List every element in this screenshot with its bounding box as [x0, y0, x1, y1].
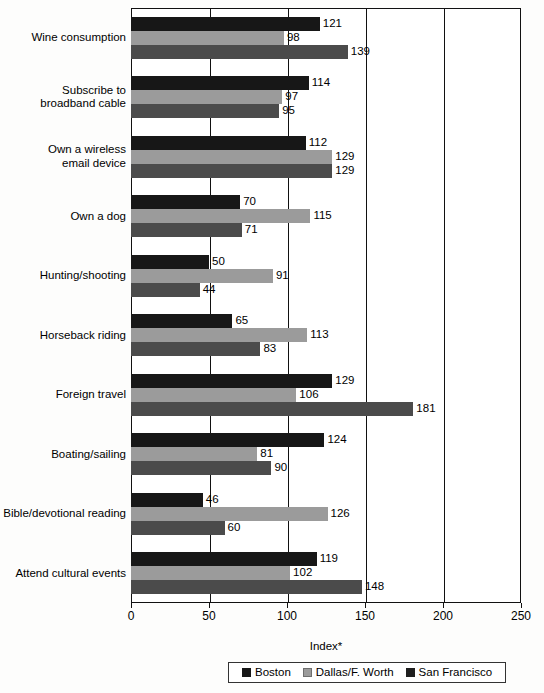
bar-slot: 71	[131, 223, 521, 237]
bar[interactable]	[131, 90, 282, 104]
category-label: Foreign travel	[0, 388, 126, 402]
bar[interactable]	[131, 580, 362, 594]
category-label: Subscribe to broadband cable	[0, 84, 126, 111]
bar[interactable]	[131, 283, 200, 297]
bar-groups: 1219813911497951121291297011571509144651…	[131, 8, 521, 603]
bar-value-label: 44	[200, 284, 216, 296]
bar[interactable]	[131, 45, 348, 59]
bar[interactable]	[131, 255, 209, 269]
bar-slot: 181	[131, 402, 521, 416]
bar-slot: 91	[131, 269, 521, 283]
bar-value-label: 83	[260, 344, 276, 356]
x-tick-label: 150	[355, 610, 375, 622]
bar-value-label: 60	[225, 522, 241, 534]
bar-group: 7011571	[131, 187, 521, 247]
bar-value-label: 121	[320, 18, 342, 30]
bar[interactable]	[131, 433, 324, 447]
legend-label: Boston	[255, 667, 291, 679]
bar-slot: 65	[131, 314, 521, 328]
legend-swatch-icon	[242, 668, 251, 677]
bar-value-label: 70	[240, 197, 256, 209]
bar[interactable]	[131, 314, 232, 328]
bar[interactable]	[131, 104, 279, 118]
bar-slot: 121	[131, 17, 521, 31]
bar-value-label: 65	[232, 316, 248, 328]
bar-value-label: 91	[273, 270, 289, 282]
bar[interactable]	[131, 164, 332, 178]
category-label: Wine consumption	[0, 31, 126, 45]
bar-value-label: 102	[290, 568, 312, 580]
bar-slot: 90	[131, 461, 521, 475]
bar-value-label: 129	[332, 375, 354, 387]
bar-value-label: 106	[296, 389, 318, 401]
bar-slot: 83	[131, 342, 521, 356]
bar[interactable]	[131, 328, 307, 342]
bar-value-label: 181	[413, 403, 435, 415]
bar[interactable]	[131, 223, 242, 237]
bar[interactable]	[131, 447, 257, 461]
bar-slot: 119	[131, 552, 521, 566]
bar-group: 1248190	[131, 425, 521, 485]
bar-value-label: 112	[306, 137, 327, 149]
x-tick-label: 100	[277, 610, 297, 622]
chart-legend: BostonDallas/F. WorthSan Francisco	[228, 662, 506, 683]
bar-value-label: 95	[279, 106, 295, 118]
bar-value-label: 139	[348, 46, 370, 58]
legend-swatch-icon	[406, 668, 415, 677]
bar-slot: 106	[131, 388, 521, 402]
bar-slot: 81	[131, 447, 521, 461]
bar-value-label: 97	[282, 92, 298, 104]
bar[interactable]	[131, 521, 225, 535]
bar-value-label: 126	[328, 508, 350, 520]
bar[interactable]	[131, 507, 328, 521]
x-tick-label: 250	[511, 610, 531, 622]
bar-group: 112129129	[131, 127, 521, 187]
bar-slot: 98	[131, 31, 521, 45]
category-label: Hunting/shooting	[0, 269, 126, 283]
bar-slot: 113	[131, 328, 521, 342]
bar[interactable]	[131, 209, 310, 223]
bar-value-label: 46	[203, 494, 219, 506]
bar[interactable]	[131, 402, 413, 416]
bar[interactable]	[131, 150, 332, 164]
category-label: Horseback riding	[0, 329, 126, 343]
legend-swatch-icon	[303, 668, 312, 677]
bar-value-label: 71	[242, 225, 258, 237]
bar-slot: 70	[131, 195, 521, 209]
bar[interactable]	[131, 136, 306, 150]
bar[interactable]	[131, 31, 284, 45]
bar-slot: 60	[131, 521, 521, 535]
bar[interactable]	[131, 269, 273, 283]
x-tick-mark	[365, 603, 366, 608]
bar-group: 6511383	[131, 306, 521, 366]
bar[interactable]	[131, 342, 260, 356]
bar-slot: 114	[131, 76, 521, 90]
bar-group: 129106181	[131, 365, 521, 425]
bar[interactable]	[131, 552, 317, 566]
bar-slot: 112	[131, 136, 521, 150]
x-tick-mark	[521, 603, 522, 608]
bar-slot: 124	[131, 433, 521, 447]
bar[interactable]	[131, 461, 271, 475]
bar-slot: 126	[131, 507, 521, 521]
bar[interactable]	[131, 566, 290, 580]
bar[interactable]	[131, 493, 203, 507]
bar-value-label: 81	[257, 449, 273, 461]
legend-label: Dallas/F. Worth	[316, 667, 394, 679]
bar[interactable]	[131, 76, 309, 90]
x-tick-mark	[443, 603, 444, 608]
legend-item[interactable]: San Francisco	[406, 667, 493, 679]
category-axis-labels: Wine consumptionSubscribe to broadband c…	[0, 8, 126, 603]
bar[interactable]	[131, 195, 240, 209]
bar-value-label: 90	[271, 463, 287, 475]
bar-slot: 148	[131, 580, 521, 594]
bar[interactable]	[131, 374, 332, 388]
bar-slot: 44	[131, 283, 521, 297]
legend-item[interactable]: Dallas/F. Worth	[303, 667, 394, 679]
bar[interactable]	[131, 388, 296, 402]
x-tick-mark	[287, 603, 288, 608]
bar[interactable]	[131, 17, 320, 31]
legend-item[interactable]: Boston	[242, 667, 291, 679]
x-axis: 050100150200250	[131, 603, 521, 633]
bar-value-label: 148	[362, 582, 384, 594]
